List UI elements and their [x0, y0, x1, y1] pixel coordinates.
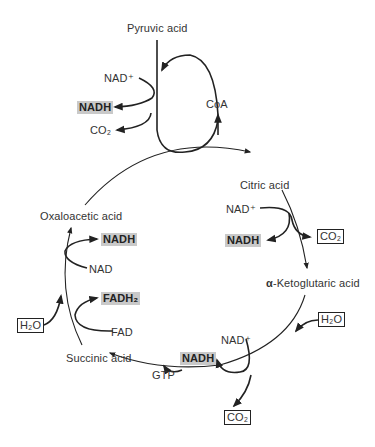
pyruvate-nad-input: NAD⁺ [104, 72, 134, 85]
ketoglutarate-nadh-output: NADH [180, 352, 216, 365]
citrate-co2-box: CO₂ [317, 229, 344, 244]
nadh-output: NADH [101, 233, 137, 246]
pyruvic-acid-label: Pyruvic acid [127, 22, 188, 35]
nad-input: NAD [89, 263, 113, 276]
citrate-nad-input: NAD⁺ [226, 203, 256, 216]
alpha-ketoglutaric-acid-text: -Ketoglutaric acid [273, 277, 360, 289]
citric-acid-label: Citric acid [240, 179, 289, 192]
fadh2-output: FADH₂ [101, 292, 140, 305]
coa-label: CoA [206, 98, 228, 111]
pyruvate-co2-output: CO₂ [90, 124, 111, 137]
oxaloacetic-acid-label: Oxaloacetic acid [40, 210, 122, 223]
fad-input: FAD [111, 326, 133, 339]
citrate-nadh-output: NADH [225, 234, 261, 247]
alpha-ketoglutaric-acid-label: α-Ketoglutaric acid [266, 277, 360, 290]
ketoglutarate-nad-input: NAD⁺ [221, 334, 251, 347]
pyruvate-nadh-output: NADH [77, 101, 113, 114]
gtp-output: GTP [152, 369, 175, 382]
succinic-acid-label: Succinic acid [66, 352, 132, 365]
ketoglutarate-h2o-box: H₂O [318, 312, 345, 327]
succinate-h2o-box: H₂O [17, 318, 44, 333]
ketoglutarate-co2-box: CO₂ [224, 410, 251, 425]
krebs-cycle-diagram: Pyruvic acid NAD⁺ NADH CO₂ CoA Citric ac… [0, 0, 375, 447]
alpha-prefix: α [266, 277, 273, 289]
cycle-arrows [0, 0, 375, 447]
